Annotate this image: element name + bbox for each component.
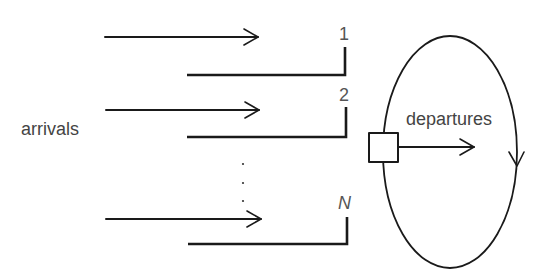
arrival-arrow-queue-n bbox=[106, 211, 261, 227]
arrival-arrow-queue-2 bbox=[106, 102, 259, 118]
queue-2-buffer bbox=[187, 107, 346, 137]
server-cycle-ellipse bbox=[383, 36, 517, 268]
server-box bbox=[369, 133, 398, 162]
polling-system-diagram: arrivals departures 1 2 N bbox=[0, 0, 544, 277]
arrivals-label: arrivals bbox=[21, 119, 79, 139]
departures-label: departures bbox=[406, 109, 492, 129]
queue-n-buffer bbox=[188, 217, 347, 244]
departure-arrow bbox=[398, 139, 474, 155]
queue-ellipsis-dots bbox=[242, 163, 244, 202]
arrival-arrow-queue-1 bbox=[105, 29, 258, 45]
queue-n-label: N bbox=[338, 193, 352, 213]
queue-1-label: 1 bbox=[339, 24, 349, 44]
queue-1-buffer bbox=[187, 47, 345, 75]
queue-2-label: 2 bbox=[339, 85, 349, 105]
